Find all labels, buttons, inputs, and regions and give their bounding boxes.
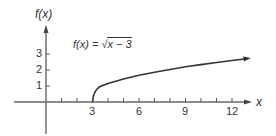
y-tick-label-3: 3 — [36, 47, 42, 59]
function-curve — [93, 59, 247, 102]
x-tick-label-6: 6 — [136, 105, 142, 117]
x-tick-label-3: 3 — [89, 105, 95, 117]
x-axis-label: x — [256, 95, 262, 109]
curve-arrow-icon — [243, 57, 251, 62]
x-tick-label-12: 12 — [226, 105, 238, 117]
equation-lhs: f(x) = — [73, 38, 101, 50]
y-tick-label-1: 1 — [36, 79, 42, 91]
equation-radicand: x − 3 — [107, 37, 131, 50]
y-axis-label: f(x) — [35, 7, 52, 21]
x-axis-arrow-icon — [244, 100, 252, 105]
x-tick-label-9: 9 — [182, 105, 188, 117]
y-axis-arrow-icon — [44, 25, 49, 33]
function-equation: f(x) = √x − 3 — [73, 38, 132, 50]
y-tick-label-2: 2 — [36, 63, 42, 75]
